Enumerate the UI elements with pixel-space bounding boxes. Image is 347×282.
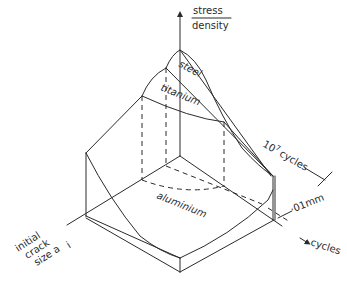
crack-size-axis-label: initial crack size a i	[13, 218, 73, 274]
left-surface-curve	[86, 153, 180, 258]
base-top-right	[180, 190, 273, 258]
cycles-arrow	[300, 238, 308, 243]
aluminium-label: aluminium	[155, 190, 208, 220]
titanium-label: titanium	[159, 82, 202, 108]
hidden-floor-line-2	[268, 208, 290, 222]
svg-text:i: i	[64, 239, 72, 250]
cycles-dim-tick	[318, 172, 332, 186]
base-left-edge	[86, 216, 180, 258]
cycles-axis-label: cycles	[309, 236, 342, 256]
aluminium-top-left-edge	[86, 96, 142, 153]
steel-front-line	[166, 68, 273, 176]
crack-dim-leader	[278, 211, 292, 218]
fatigue-surface-diagram: stress density steel titanium aluminium …	[0, 0, 347, 282]
base-bottom-right	[180, 220, 274, 272]
density-label: density	[192, 20, 229, 31]
cycles-dim-leader	[305, 168, 325, 180]
hidden-floor-curve	[142, 180, 224, 190]
steel-label: steel	[177, 58, 204, 79]
cycles-limit-label: 107cycles	[261, 137, 311, 173]
base-bottom-left	[86, 216, 180, 272]
stress-label: stress	[193, 5, 223, 16]
crack-size-dim-label: ·01mm	[289, 191, 326, 214]
